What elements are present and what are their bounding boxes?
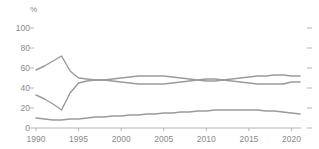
axes: [30, 28, 312, 131]
line-chart: % 100806040200 1990199520002005201020152…: [0, 0, 319, 149]
data-line-series-2: [36, 79, 300, 110]
data-lines: [36, 56, 300, 120]
plot-area: [0, 0, 319, 149]
data-line-series-1: [36, 56, 300, 81]
data-line-series-3: [36, 110, 300, 120]
